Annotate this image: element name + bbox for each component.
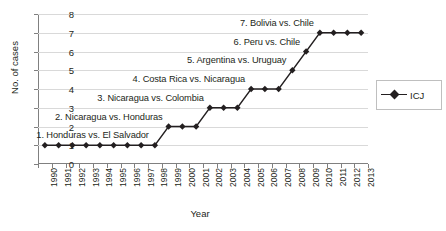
data-annotation: 3. Nicaragua vs. Colombia bbox=[0, 93, 204, 103]
y-axis-tick-mark bbox=[34, 52, 38, 53]
x-axis-tick-label: 1991 bbox=[63, 168, 73, 204]
x-axis-tick-mark bbox=[258, 164, 259, 168]
x-axis-tick-mark bbox=[272, 164, 273, 168]
legend-marker-icon bbox=[381, 90, 407, 100]
x-axis-tick-mark bbox=[203, 164, 204, 168]
x-axis-tick-label: 2005 bbox=[256, 168, 266, 204]
chart-legend: ICJ bbox=[376, 80, 442, 110]
x-axis-tick-label: 1999 bbox=[173, 168, 183, 204]
x-axis-tick-mark bbox=[231, 164, 232, 168]
x-axis-tick-label: 2002 bbox=[214, 168, 224, 204]
y-axis-tick-label: 6 bbox=[48, 46, 74, 57]
x-axis-tick-label: 1995 bbox=[118, 168, 128, 204]
x-axis-title: Year bbox=[30, 208, 370, 219]
data-annotation: 5. Argentina vs. Uruguay bbox=[0, 55, 286, 65]
x-axis-tick-label: 2007 bbox=[283, 168, 293, 204]
x-axis-tick-mark bbox=[189, 164, 190, 168]
x-axis-tick-label: 2001 bbox=[201, 168, 211, 204]
x-axis-tick-label: 1994 bbox=[104, 168, 114, 204]
gridline bbox=[38, 89, 368, 90]
x-axis-tick-mark bbox=[286, 164, 287, 168]
x-axis-tick-label: 2012 bbox=[352, 168, 362, 204]
x-axis-tick-label: 2004 bbox=[242, 168, 252, 204]
x-axis-tick-label: 1998 bbox=[159, 168, 169, 204]
y-axis-tick-label: 1 bbox=[48, 140, 74, 151]
x-axis-tick-mark bbox=[134, 164, 135, 168]
x-axis-tick-label: 1996 bbox=[132, 168, 142, 204]
x-axis-tick-label: 2013 bbox=[366, 168, 376, 204]
x-axis-tick-label: 1993 bbox=[91, 168, 101, 204]
x-axis-tick-mark bbox=[368, 164, 369, 168]
gridline bbox=[38, 145, 368, 146]
x-axis-tick-label: 2008 bbox=[297, 168, 307, 204]
x-axis-tick-mark bbox=[121, 164, 122, 168]
x-axis-tick-label: 2010 bbox=[324, 168, 334, 204]
y-axis-tick-label: 3 bbox=[48, 102, 74, 113]
gridline bbox=[38, 108, 368, 109]
x-axis-tick-label: 2011 bbox=[338, 168, 348, 204]
x-axis-tick-label: 2000 bbox=[187, 168, 197, 204]
x-axis-tick-mark bbox=[66, 164, 67, 168]
gridline bbox=[38, 127, 368, 128]
gridline bbox=[38, 14, 368, 15]
x-axis-tick-label: 2003 bbox=[228, 168, 238, 204]
y-axis-tick-mark bbox=[34, 145, 38, 146]
x-axis-tick-mark bbox=[354, 164, 355, 168]
y-axis-tick-label: 2 bbox=[48, 121, 74, 132]
x-axis-tick-mark bbox=[313, 164, 314, 168]
x-axis-tick-mark bbox=[176, 164, 177, 168]
gridline bbox=[38, 70, 368, 71]
x-axis-tick-label: 1990 bbox=[49, 168, 59, 204]
x-axis-tick-mark bbox=[327, 164, 328, 168]
x-axis-tick-label: 2006 bbox=[269, 168, 279, 204]
x-axis-tick-mark bbox=[93, 164, 94, 168]
x-axis-tick-mark bbox=[244, 164, 245, 168]
x-axis-tick-mark bbox=[38, 164, 39, 168]
y-axis-tick-mark bbox=[34, 14, 38, 15]
x-axis-tick-mark bbox=[148, 164, 149, 168]
y-axis-tick-mark bbox=[34, 70, 38, 71]
y-axis-tick-label: 8 bbox=[48, 9, 74, 20]
data-annotation: 1. Honduras vs. El Salvador bbox=[0, 130, 149, 140]
y-axis-tick-label: 7 bbox=[48, 27, 74, 38]
data-annotation: 2. Nicaragua vs. Honduras bbox=[0, 112, 163, 122]
data-annotation: 4. Costa Rica vs. Nicaragua bbox=[0, 74, 245, 84]
y-axis-tick-label: 5 bbox=[48, 65, 74, 76]
data-annotation: 6. Peru vs. Chile bbox=[0, 37, 300, 47]
gridline bbox=[38, 33, 368, 34]
legend-label: ICJ bbox=[410, 90, 424, 101]
x-axis-tick-mark bbox=[217, 164, 218, 168]
x-axis-tick-mark bbox=[162, 164, 163, 168]
x-axis-tick-mark bbox=[79, 164, 80, 168]
gridline bbox=[38, 52, 368, 53]
y-axis-tick-mark bbox=[34, 89, 38, 90]
x-axis-tick-label: 2009 bbox=[311, 168, 321, 204]
x-axis-tick-mark bbox=[299, 164, 300, 168]
chart-container: No. of cases Year 1. Honduras vs. El Sal… bbox=[0, 0, 446, 231]
x-axis-tick-mark bbox=[52, 164, 53, 168]
x-axis-tick-mark bbox=[341, 164, 342, 168]
y-axis-tick-mark bbox=[34, 127, 38, 128]
x-axis-tick-label: 1997 bbox=[146, 168, 156, 204]
x-axis-tick-label: 1992 bbox=[77, 168, 87, 204]
y-axis-tick-mark bbox=[34, 33, 38, 34]
x-axis-tick-mark bbox=[107, 164, 108, 168]
y-axis-tick-label: 4 bbox=[48, 84, 74, 95]
y-axis-tick-mark bbox=[34, 108, 38, 109]
